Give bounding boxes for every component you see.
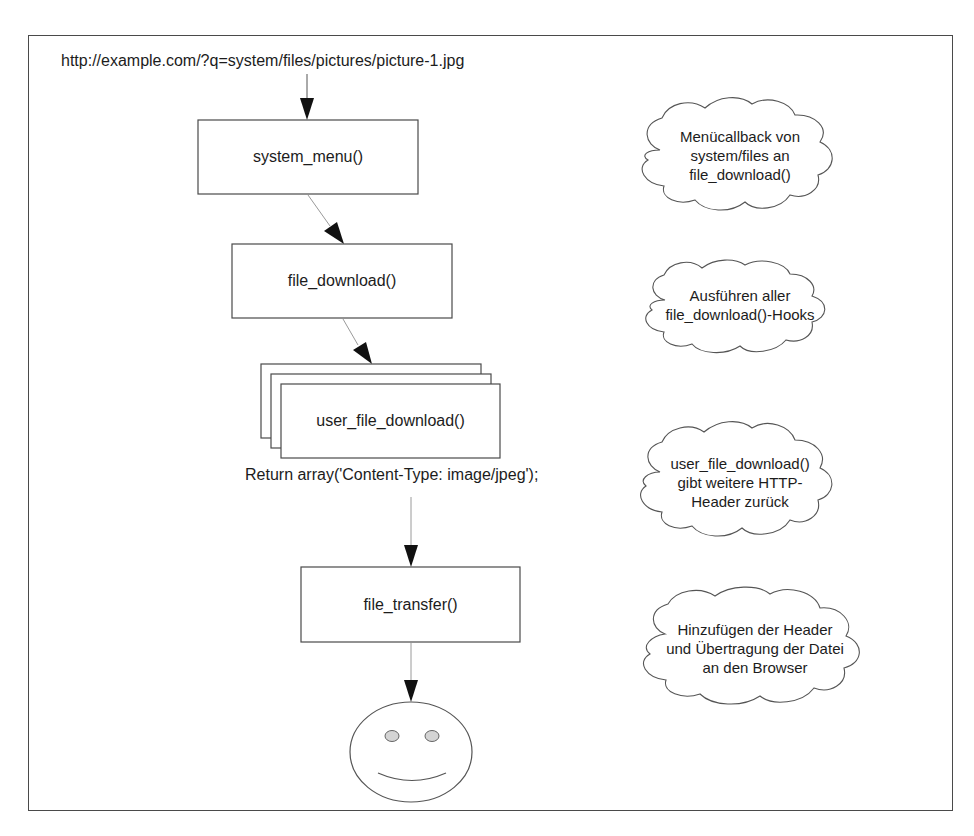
right-eye-icon <box>425 731 439 742</box>
cloud-note-1: Menücallback von system/files an file_do… <box>650 105 830 205</box>
cloud-note-3: user_file_download() gibt weitere HTTP- … <box>650 432 830 532</box>
cloud-note-3-line-2: gibt weitere HTTP- <box>677 473 802 492</box>
cloud-note-4-line-3: an den Browser <box>702 658 807 677</box>
left-eye-icon <box>385 731 399 742</box>
cloud-note-2-line-2: file_download()-Hooks <box>665 305 814 324</box>
arrowhead-icon <box>404 680 418 702</box>
cloud-note-2-line-1: Ausführen aller <box>690 286 791 305</box>
node-system-menu-label: system_menu() <box>198 120 418 194</box>
cloud-note-3-line-3: Header zurück <box>691 492 789 511</box>
cloud-note-2: Ausführen aller file_download()-Hooks <box>650 265 830 345</box>
cloud-note-4-line-2: und Übertragung der Datei <box>666 639 844 658</box>
cloud-note-4-line-1: Hinzufügen der Header <box>677 620 832 639</box>
smiley-face-icon <box>350 702 472 802</box>
edge-url-to-system-menu <box>300 74 314 120</box>
cloud-note-1-line-1: Menücallback von <box>680 127 800 146</box>
edge-system-menu-to-file-download <box>308 195 344 244</box>
request-url-label: http://example.com/?q=system/files/pictu… <box>61 51 464 70</box>
return-value-label: Return array('Content-Type: image/jpeg')… <box>245 465 538 484</box>
edge-user-file-download-to-file-transfer <box>404 497 418 567</box>
node-file-download-label: file_download() <box>232 244 452 318</box>
edge-file-transfer-to-user <box>404 643 418 702</box>
edge-file-download-to-user-file-download <box>343 319 372 364</box>
node-user-file-download-label: user_file_download() <box>281 384 500 458</box>
arrowhead-icon <box>324 222 344 244</box>
cloud-note-3-line-1: user_file_download() <box>670 454 809 473</box>
arrowhead-icon <box>404 545 418 567</box>
node-file-transfer-label: file_transfer() <box>301 567 520 642</box>
cloud-note-1-line-2: system/files an <box>690 146 789 165</box>
arrowhead-icon <box>353 342 372 364</box>
arrowhead-icon <box>300 98 314 120</box>
cloud-note-4: Hinzufügen der Header und Übertragung de… <box>655 598 855 698</box>
cloud-note-1-line-3: file_download() <box>689 165 791 184</box>
